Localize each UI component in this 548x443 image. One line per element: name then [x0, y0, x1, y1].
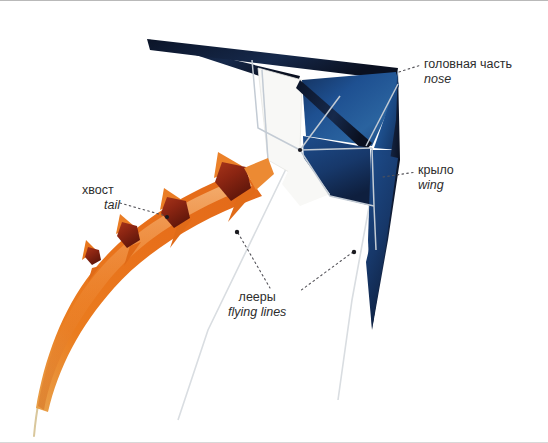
tail-ornament-gem [85, 247, 101, 265]
label-tail: хвост tail [82, 183, 120, 213]
leader-line-lines-right [300, 252, 353, 291]
leader-line-lines-left [238, 233, 270, 288]
label-wing-en: wing [418, 178, 454, 193]
kite-body [147, 39, 400, 330]
label-tail-ru: хвост [82, 183, 120, 198]
label-nose: головная часть nose [424, 57, 512, 87]
leader-dot-tail [165, 215, 169, 219]
label-nose-ru: головная часть [424, 57, 512, 72]
kite-diagram-figure: головная часть nose крыло wing хвост tai… [0, 0, 548, 443]
label-wing: крыло wing [418, 163, 454, 193]
label-tail-en: tail [82, 198, 120, 213]
label-nose-en: nose [424, 72, 512, 87]
label-flying-lines-ru: лееры [228, 290, 286, 305]
label-flying-lines-en: flying lines [228, 305, 286, 320]
leader-dot-line-right [352, 250, 356, 254]
label-wing-ru: крыло [418, 163, 454, 178]
label-flying-lines: лееры flying lines [228, 290, 286, 320]
flying-line-right [338, 196, 371, 400]
kite-fitting-dot [298, 148, 302, 152]
leader-dot-line-left [235, 230, 239, 234]
leader-line-nose [399, 65, 421, 72]
